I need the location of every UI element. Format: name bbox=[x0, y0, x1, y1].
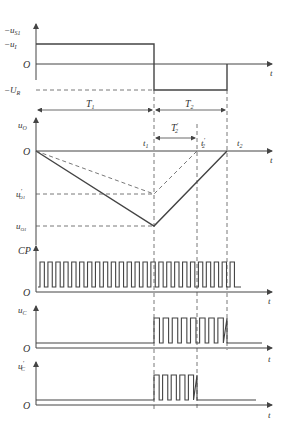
panel-integrator: uO O t T′2 t1 t′2 t2 u′O1 uO1 bbox=[16, 118, 273, 245]
T2-label: T2 bbox=[185, 98, 194, 110]
t-axis-label: t bbox=[268, 410, 271, 420]
cp-waveform bbox=[38, 262, 241, 287]
t2p-label: t′2 bbox=[201, 136, 206, 149]
uc-waveform bbox=[36, 318, 262, 343]
panel-input: −uS1 −uI O −UR t T1 T2 bbox=[4, 24, 273, 110]
cp-label: CP bbox=[18, 245, 31, 256]
ucp-label: u′C bbox=[18, 359, 26, 372]
uo1p-label: u′O1 bbox=[16, 187, 25, 200]
panel-counter-output: uC O t bbox=[18, 305, 272, 364]
uo-waveform bbox=[36, 151, 227, 226]
uo1-label: uO1 bbox=[16, 221, 27, 232]
panel-counter-output-prime: u′C O t bbox=[18, 359, 272, 420]
neg-us1-label: −uS1 bbox=[4, 25, 21, 36]
t-axis-label: t bbox=[270, 155, 273, 165]
input-waveform bbox=[36, 44, 227, 90]
uo-label: uO bbox=[18, 120, 28, 131]
origin-label: O bbox=[23, 343, 30, 354]
origin-label: O bbox=[23, 146, 30, 157]
uo-prime-waveform bbox=[36, 151, 197, 194]
t1-label: t1 bbox=[143, 138, 149, 149]
timing-diagram: −uS1 −uI O −UR t T1 T2 uO O t T′2 t1 t′2… bbox=[0, 0, 293, 433]
neg-ur-label: −UR bbox=[4, 85, 21, 96]
panel-clock: CP O t bbox=[18, 245, 272, 306]
t-axis-label: t bbox=[268, 296, 271, 306]
uc-label: uC bbox=[18, 305, 28, 316]
origin-label: O bbox=[23, 400, 30, 411]
t-axis-label: t bbox=[270, 68, 273, 78]
t2-label: t2 bbox=[237, 138, 243, 149]
origin-label: O bbox=[23, 287, 30, 298]
neg-ui-label: −uI bbox=[4, 39, 18, 50]
origin-label: O bbox=[23, 59, 30, 70]
t-axis-label: t bbox=[268, 354, 271, 364]
T1-label: T1 bbox=[86, 98, 95, 110]
ucp-waveform bbox=[36, 375, 256, 400]
T2p-label: T′2 bbox=[171, 121, 179, 134]
